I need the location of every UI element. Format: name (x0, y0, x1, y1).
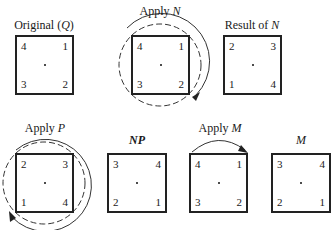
corner-top-left: 4 (195, 159, 201, 170)
corner-bottom-right: 1 (156, 197, 162, 208)
apply-n-arrowhead-icon (192, 92, 200, 101)
corner-top-right: 4 (156, 159, 162, 170)
center-dot (218, 182, 220, 184)
corner-bottom-left: 3 (195, 197, 201, 208)
apply-p-square: 2 3 1 4 (15, 153, 74, 213)
corner-top-left: 2 (229, 41, 235, 52)
center-dot (44, 64, 46, 66)
corner-top-right: 3 (271, 41, 277, 52)
corner-bottom-right: 2 (179, 79, 185, 90)
corner-bottom-right: 2 (63, 79, 69, 90)
center-dot (136, 182, 138, 184)
corner-bottom-left: 3 (21, 79, 27, 90)
center-dot (160, 64, 162, 66)
corner-top-left: 3 (277, 159, 283, 170)
corner-bottom-right: 4 (271, 79, 277, 90)
corner-top-left: 3 (113, 159, 119, 170)
apply-m-square: 4 1 3 2 (189, 153, 248, 213)
np-label: NP (107, 134, 167, 147)
apply-n-label: Apply N (135, 5, 185, 18)
m-label: M (271, 134, 331, 147)
apply-m-arrowhead-icon (238, 145, 248, 153)
original-square: 4 1 3 2 (15, 35, 74, 95)
corner-top-right: 1 (63, 41, 69, 52)
corner-bottom-right: 1 (320, 197, 326, 208)
corner-bottom-left: 3 (137, 79, 143, 90)
corner-top-right: 4 (320, 159, 326, 170)
corner-bottom-left: 2 (277, 197, 283, 208)
center-dot (252, 64, 254, 66)
corner-top-left: 4 (137, 41, 143, 52)
apply-p-label: Apply P (20, 122, 70, 135)
center-dot (300, 182, 302, 184)
apply-m-label: Apply M (195, 122, 245, 135)
corner-bottom-right: 4 (63, 197, 69, 208)
corner-top-right: 1 (237, 159, 243, 170)
apply-m-flip-arrow (192, 140, 245, 152)
corner-bottom-left: 1 (21, 197, 27, 208)
original-label: Original (Q) (8, 19, 80, 32)
corner-top-right: 1 (179, 41, 185, 52)
corner-bottom-right: 2 (237, 197, 243, 208)
corner-bottom-left: 2 (113, 197, 119, 208)
apply-n-square: 4 1 3 2 (131, 35, 190, 95)
m-square: 3 4 2 1 (271, 153, 331, 213)
result-n-square: 2 3 1 4 (223, 35, 282, 95)
corner-top-left: 2 (21, 159, 27, 170)
corner-top-right: 3 (63, 159, 69, 170)
corner-bottom-left: 1 (229, 79, 235, 90)
np-square: 3 4 2 1 (107, 153, 167, 213)
result-n-label: Result of N (222, 19, 282, 32)
center-dot (44, 182, 46, 184)
corner-top-left: 4 (21, 41, 27, 52)
